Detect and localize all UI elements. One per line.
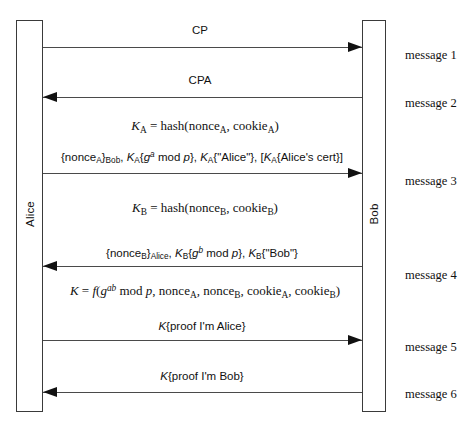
message-number-6: message 6	[405, 387, 457, 402]
message-number-4: message 4	[405, 268, 457, 283]
message-label-3: {nonceA}Bob, KA{ga mod p}, KA{"Alice"}, …	[0, 150, 404, 165]
arrow-line-4	[43, 266, 362, 267]
arrow-line-3	[43, 173, 362, 174]
message-number-5: message 5	[405, 340, 457, 355]
message-label-1: CP	[0, 24, 400, 36]
arrow-head-1	[348, 42, 362, 52]
k-session-formula: K = f(gab mod p, nonceA, nonceB, cookieA…	[0, 283, 410, 300]
message-label-2: CPA	[0, 74, 400, 86]
message-label-6: K{proof I'm Bob}	[0, 370, 404, 382]
message-number-1: message 1	[405, 48, 457, 63]
arrow-head-6	[43, 387, 57, 397]
arrow-line-1	[43, 47, 362, 48]
ka-formula: KA = hash(nonceA, cookieA)	[0, 118, 410, 135]
arrow-head-3	[348, 168, 362, 178]
arrow-line-6	[43, 392, 362, 393]
message-label-5: K{proof I'm Alice}	[0, 320, 404, 332]
arrow-head-4	[43, 261, 57, 271]
kb-formula: KB = hash(nonceB, cookieB)	[0, 200, 410, 217]
message-label-4: {nonceB}Alice, KB{gb mod p}, KB{"Bob"}	[0, 246, 404, 261]
arrow-line-2	[43, 97, 362, 98]
arrow-head-5	[348, 335, 362, 345]
diagram-canvas: AliceBobCPmessage 1CPAmessage 2{nonceA}B…	[0, 0, 471, 433]
arrow-head-2	[43, 92, 57, 102]
message-number-3: message 3	[405, 174, 457, 189]
message-number-2: message 2	[405, 96, 457, 111]
arrow-line-5	[43, 340, 362, 341]
